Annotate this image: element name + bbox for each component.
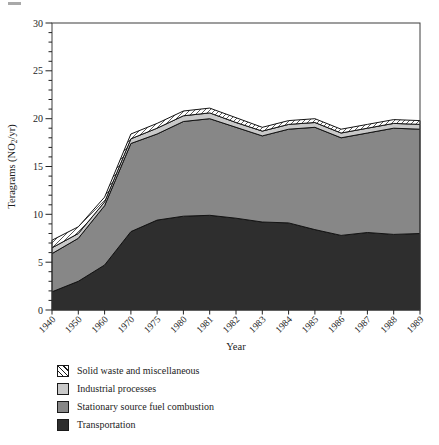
legend-swatch-stationary — [57, 401, 69, 413]
legend-swatch-industrial — [57, 383, 69, 395]
x-tick-label: 1989 — [405, 314, 426, 335]
stacked-areas — [52, 108, 420, 310]
y-tick-label: 0 — [38, 305, 43, 316]
x-tick-label: 1988 — [379, 314, 400, 335]
x-tick-label: 1981 — [195, 314, 216, 335]
x-tick-label: 1983 — [247, 314, 268, 335]
y-tick-label: 25 — [33, 65, 43, 76]
x-axis-title: Year — [226, 341, 246, 352]
legend-label-stationary: Stationary source fuel combustion — [77, 400, 214, 413]
y-tick-label: 5 — [38, 257, 43, 268]
legend-swatch-solid-waste — [57, 365, 69, 377]
legend-item-industrial: Industrial processes — [57, 382, 214, 395]
x-tick-label: 1982 — [221, 314, 242, 335]
x-tick-label: 1985 — [300, 314, 321, 335]
x-tick-label: 1986 — [326, 314, 347, 335]
legend-label-transportation: Transportation — [77, 418, 136, 431]
x-tick-label: 1960 — [89, 314, 110, 335]
x-tick-label: 1987 — [352, 314, 373, 335]
legend-item-solid-waste: Solid waste and miscellaneous — [57, 364, 214, 377]
legend: Solid waste and miscellaneous Industrial… — [57, 364, 214, 431]
legend-item-transportation: Transportation — [57, 418, 214, 431]
x-tick-label: 1980 — [168, 314, 189, 335]
y-tick-label: 30 — [33, 18, 43, 29]
emissions-stacked-area-figure: 0510152025301940195019601970197519801981… — [0, 0, 439, 445]
legend-label-industrial: Industrial processes — [77, 382, 156, 395]
y-axis-title: Teragrams (NO2/yr) — [6, 124, 19, 209]
legend-item-stationary: Stationary source fuel combustion — [57, 400, 214, 413]
x-tick-label: 1975 — [142, 314, 163, 335]
x-tick-label: 1984 — [273, 314, 294, 335]
x-tick-label: 1940 — [37, 314, 58, 335]
y-tick-label: 20 — [33, 113, 43, 124]
y-tick-label: 10 — [33, 209, 43, 220]
legend-label-solid-waste: Solid waste and miscellaneous — [77, 364, 199, 377]
x-tick-label: 1970 — [116, 314, 137, 335]
x-tick-label: 1950 — [63, 314, 84, 335]
legend-swatch-transportation — [57, 419, 69, 431]
y-tick-label: 15 — [33, 161, 43, 172]
